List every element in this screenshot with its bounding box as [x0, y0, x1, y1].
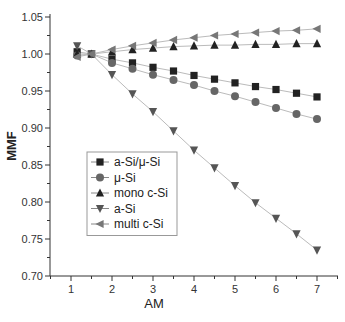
- legend-marker-icon: [96, 158, 103, 165]
- data-point: [149, 71, 157, 79]
- y-tick-label: 0.75: [22, 233, 43, 245]
- data-point: [251, 199, 259, 207]
- data-point: [210, 164, 218, 172]
- data-point: [293, 110, 301, 118]
- y-axis-title: MMF: [4, 131, 19, 161]
- y-tick-label: 1.05: [22, 11, 43, 23]
- data-point: [272, 215, 280, 223]
- data-point: [231, 79, 238, 86]
- x-tick-label: 5: [232, 283, 238, 295]
- axes: 0.700.750.800.850.900.951.001.051234567: [22, 11, 338, 295]
- data-point: [170, 76, 178, 84]
- legend-label: mono c-Si: [114, 186, 168, 200]
- data-point: [231, 92, 239, 100]
- data-point: [313, 93, 320, 100]
- data-point: [128, 90, 136, 98]
- legend: a-Si/μ-Siμ-Simono c-Sia-Simulti c-Si: [87, 152, 177, 236]
- data-point: [190, 81, 198, 89]
- legend-label: multi c-Si: [114, 217, 163, 231]
- data-point: [210, 31, 218, 39]
- legend-marker-icon: [96, 174, 104, 182]
- legend-label: a-Si: [114, 202, 135, 216]
- x-tick-label: 4: [191, 283, 197, 295]
- y-tick-label: 0.85: [22, 159, 43, 171]
- data-point: [190, 72, 197, 79]
- x-tick-label: 3: [150, 283, 156, 295]
- x-axis-title: AM: [144, 296, 164, 311]
- data-point: [293, 90, 300, 97]
- y-tick-label: 0.70: [22, 270, 43, 282]
- data-point: [292, 230, 300, 238]
- data-point: [272, 86, 279, 93]
- legend-label: μ-Si: [114, 171, 136, 185]
- data-point: [271, 27, 279, 35]
- data-point: [313, 247, 321, 255]
- legend-label: a-Si/μ-Si: [114, 155, 160, 169]
- mmf-vs-am-chart: 0.700.750.800.850.900.951.001.051234567 …: [0, 0, 345, 322]
- data-point: [230, 30, 238, 38]
- data-point: [251, 40, 259, 48]
- x-tick-label: 6: [273, 283, 279, 295]
- data-point: [169, 36, 177, 44]
- data-point: [190, 147, 198, 155]
- data-point: [252, 83, 259, 90]
- x-tick-label: 1: [68, 283, 74, 295]
- series--si: [73, 50, 321, 123]
- y-tick-label: 0.80: [22, 196, 43, 208]
- data-point: [251, 28, 259, 36]
- x-tick-label: 2: [109, 283, 115, 295]
- y-tick-label: 0.90: [22, 122, 43, 134]
- y-tick-label: 1.00: [22, 48, 43, 60]
- data-point: [108, 59, 116, 67]
- data-point: [312, 25, 320, 33]
- data-point: [149, 64, 156, 71]
- data-point: [272, 104, 280, 112]
- data-point: [189, 34, 197, 42]
- data-point: [170, 67, 177, 74]
- x-tick-label: 7: [314, 283, 320, 295]
- data-point: [129, 65, 137, 73]
- data-point: [252, 98, 260, 106]
- data-point: [231, 182, 239, 190]
- data-point: [292, 26, 300, 34]
- data-point: [313, 115, 321, 123]
- data-point: [211, 87, 219, 95]
- data-point: [211, 76, 218, 83]
- y-tick-label: 0.95: [22, 85, 43, 97]
